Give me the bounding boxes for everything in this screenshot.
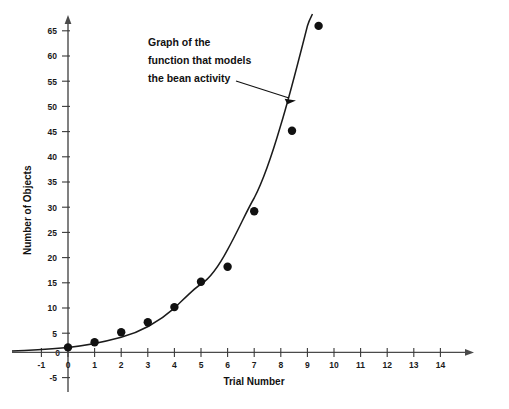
annotation-line-2: function that models (148, 54, 251, 66)
y-tick-label-20: 20 (48, 253, 58, 263)
chart-background (0, 0, 509, 409)
x-axis-title: Trial Number (223, 376, 284, 387)
x-tick-label-0: 0 (66, 360, 71, 370)
data-point (314, 22, 322, 30)
x-tick-label-5: 5 (199, 360, 204, 370)
y-tick-label-25: 25 (48, 228, 58, 238)
x-tick-label-8: 8 (278, 360, 283, 370)
y-tick-label-neg5: -5 (49, 373, 57, 383)
annotation-line-1: Graph of the (148, 36, 211, 48)
y-axis-title: Number of Objects (22, 165, 33, 255)
y-tick-label-35: 35 (48, 177, 58, 187)
x-tick-label-neg1: -1 (38, 360, 46, 370)
y-tick-label-15: 15 (48, 278, 58, 288)
data-point (223, 263, 231, 271)
x-tick-label-7: 7 (252, 360, 257, 370)
data-point (117, 328, 125, 336)
y-tick-label-40: 40 (48, 152, 58, 162)
chart-canvas: 65 60 55 50 45 40 35 30 25 20 15 10 5 0 … (0, 0, 509, 409)
x-tick-label-4: 4 (172, 360, 177, 370)
x-tick-label-1: 1 (92, 360, 97, 370)
data-point (170, 303, 178, 311)
y-tick-label-45: 45 (48, 127, 58, 137)
x-tick-label-3: 3 (145, 360, 150, 370)
y-tick-label-55: 55 (48, 77, 58, 87)
y-tick-label-50: 50 (48, 102, 58, 112)
y-tick-label-65: 65 (48, 26, 58, 36)
x-tick-label-14: 14 (436, 360, 446, 370)
x-tick-label-2: 2 (119, 360, 124, 370)
data-point (288, 127, 296, 135)
chart-figure: 65 60 55 50 45 40 35 30 25 20 15 10 5 0 … (0, 0, 509, 409)
x-tick-label-9: 9 (305, 360, 310, 370)
y-tick-label-10: 10 (48, 303, 58, 313)
y-tick-label-60: 60 (48, 51, 58, 61)
data-point (144, 318, 152, 326)
y-tick-label-5: 5 (52, 329, 57, 339)
x-tick-label-6: 6 (225, 360, 230, 370)
x-tick-label-10: 10 (329, 360, 339, 370)
data-point (250, 207, 258, 215)
data-point (197, 278, 205, 286)
x-tick-label-13: 13 (409, 360, 419, 370)
data-point (90, 338, 98, 346)
data-point (64, 343, 72, 351)
y-tick-label-30: 30 (48, 203, 58, 213)
x-tick-label-12: 12 (382, 360, 392, 370)
x-tick-label-11: 11 (356, 360, 365, 370)
annotation-line-3: the bean activity (148, 72, 230, 84)
